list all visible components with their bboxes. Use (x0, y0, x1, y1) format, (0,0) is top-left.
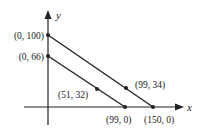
y-axis-arrow-icon (45, 10, 52, 19)
point-99-34 (124, 86, 128, 90)
x-axis-label: x (186, 101, 192, 113)
label-0-100: (0, 100) (14, 31, 44, 42)
label-99-34: (99, 34) (135, 80, 165, 91)
label-150-0: (150, 0) (144, 115, 174, 126)
point-99-0 (123, 105, 127, 109)
y-axis-label: y (55, 9, 61, 21)
label-99-0: (99, 0) (106, 115, 131, 126)
label-51-32: (51, 32) (58, 90, 88, 101)
label-0-66: (0, 66) (19, 52, 44, 63)
x-axis-arrow-icon (175, 104, 184, 111)
diagram: y x (0, 100) (0, 66) (99, 34) (51, 32) (… (0, 0, 200, 133)
point-150-0 (151, 105, 155, 109)
point-51-32 (95, 87, 99, 91)
y-axis (45, 10, 52, 125)
point-0-66 (46, 54, 50, 58)
point-0-100 (46, 33, 50, 37)
